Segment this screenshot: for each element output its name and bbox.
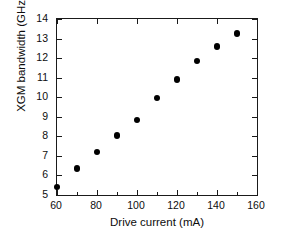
x-axis-tick bbox=[97, 19, 98, 24]
x-axis-tick bbox=[217, 190, 218, 195]
x-axis-tick-label: 120 bbox=[161, 200, 191, 211]
y-axis-tick bbox=[57, 39, 62, 40]
x-axis-tick bbox=[57, 19, 58, 24]
plot-area bbox=[57, 19, 257, 195]
y-axis-tick bbox=[252, 136, 257, 137]
x-axis-minor-tick bbox=[157, 192, 158, 195]
data-point bbox=[114, 132, 120, 138]
x-axis-minor-tick bbox=[117, 192, 118, 195]
y-axis-tick bbox=[57, 195, 62, 196]
data-point bbox=[134, 117, 140, 123]
x-axis-tick bbox=[177, 19, 178, 24]
y-axis-tick bbox=[57, 175, 62, 176]
data-point bbox=[94, 149, 100, 155]
y-axis-tick bbox=[57, 156, 62, 157]
y-axis-tick-label: 7 bbox=[0, 150, 48, 161]
x-axis-tick-label: 160 bbox=[241, 200, 271, 211]
y-axis-tick-label: 5 bbox=[0, 189, 48, 200]
data-point bbox=[74, 165, 80, 171]
x-axis-tick bbox=[57, 190, 58, 195]
x-axis-tick bbox=[257, 19, 258, 24]
x-axis-minor-tick bbox=[237, 192, 238, 195]
x-axis-tick bbox=[257, 190, 258, 195]
y-axis-tick bbox=[252, 78, 257, 79]
x-axis-tick bbox=[97, 190, 98, 195]
y-axis-tick bbox=[252, 175, 257, 176]
data-point bbox=[174, 76, 180, 82]
x-axis-tick-label: 100 bbox=[121, 200, 151, 211]
data-point bbox=[54, 184, 60, 190]
x-axis-tick-label: 140 bbox=[201, 200, 231, 211]
y-axis-tick bbox=[252, 39, 257, 40]
data-point bbox=[154, 95, 160, 101]
y-axis-tick bbox=[252, 58, 257, 59]
y-axis-tick bbox=[57, 97, 62, 98]
y-axis-tick bbox=[252, 195, 257, 196]
x-axis-tick bbox=[137, 190, 138, 195]
x-axis-title: Drive current (mA) bbox=[56, 216, 258, 228]
y-axis-title: XGM bandwidth (GHz) bbox=[15, 0, 27, 143]
x-axis-tick-label: 80 bbox=[81, 200, 111, 211]
y-axis-tick bbox=[57, 78, 62, 79]
x-axis-tick bbox=[177, 190, 178, 195]
x-axis-tick bbox=[217, 19, 218, 24]
x-axis-tick-label: 60 bbox=[41, 200, 71, 211]
x-axis-tick bbox=[137, 19, 138, 24]
y-axis-tick bbox=[252, 117, 257, 118]
y-axis-tick-label: 6 bbox=[0, 169, 48, 180]
plot-frame bbox=[56, 18, 258, 196]
x-axis-minor-tick bbox=[77, 192, 78, 195]
data-point bbox=[194, 58, 200, 64]
chart-figure: 567891011121314 6080100120140160 Drive c… bbox=[0, 0, 282, 238]
y-axis-tick bbox=[57, 117, 62, 118]
y-axis-tick bbox=[252, 97, 257, 98]
y-axis-tick bbox=[252, 156, 257, 157]
x-axis-minor-tick bbox=[197, 192, 198, 195]
y-axis-tick bbox=[57, 58, 62, 59]
data-point bbox=[234, 30, 240, 36]
data-point bbox=[214, 43, 220, 49]
y-axis-tick bbox=[57, 136, 62, 137]
